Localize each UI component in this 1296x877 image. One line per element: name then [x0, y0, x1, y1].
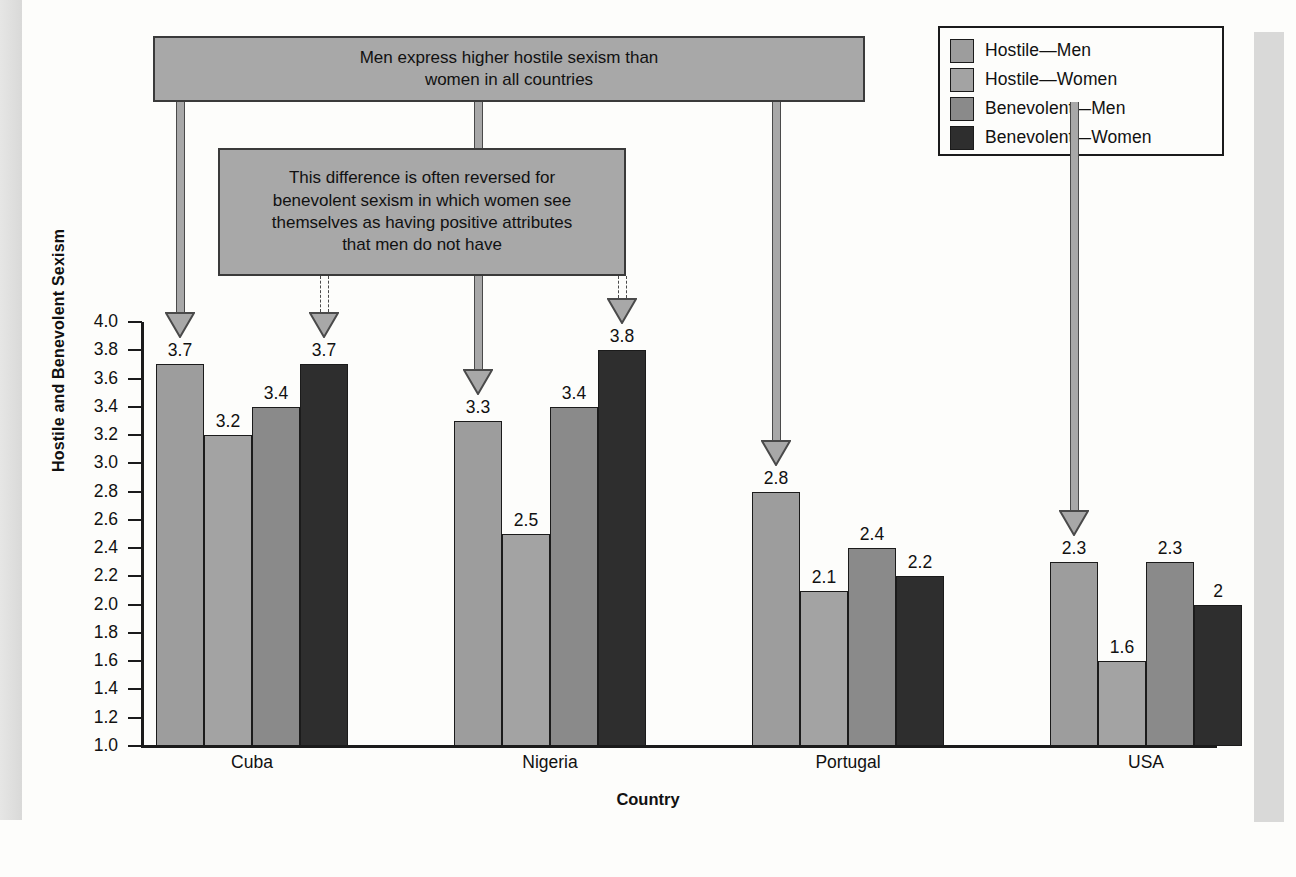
arrow-cuba-hostile-men-stem	[176, 102, 185, 312]
y-tick-label: 3.4	[66, 396, 118, 417]
legend-swatch-icon	[950, 68, 974, 92]
legend-item-label: Hostile—Women	[985, 69, 1117, 90]
bar[interactable]: 2.3	[1050, 562, 1098, 746]
page-bottom-margin	[0, 822, 1296, 877]
callout1-line1: Men express higher hostile sexism than	[360, 47, 659, 69]
y-tick-mark	[128, 406, 142, 408]
bar[interactable]: 2.2	[896, 576, 944, 746]
bar-value-label: 3.3	[466, 397, 490, 418]
bar[interactable]: 3.7	[300, 364, 348, 746]
bar-value-label: 3.2	[216, 411, 240, 432]
bar[interactable]: 2.8	[752, 492, 800, 746]
x-category-label: Portugal	[752, 752, 944, 773]
bar-group: 2.31.62.32USA	[1050, 322, 1242, 746]
bar-value-label: 3.4	[562, 383, 586, 404]
y-tick-label: 2.0	[66, 594, 118, 615]
bar-group-bars: 2.31.62.32	[1050, 322, 1242, 746]
plot-area: Hostile and Benevolent Sexism 4.03.83.63…	[142, 322, 1214, 746]
y-tick-label: 3.2	[66, 424, 118, 445]
bar-group: 3.32.53.43.8Nigeria	[454, 322, 646, 746]
bar-value-label: 2	[1213, 581, 1223, 602]
bar-group: 2.82.12.42.2Portugal	[752, 322, 944, 746]
arrow-nigeria-benevolent-women-head	[607, 298, 637, 324]
legend-item: Benevolent—Women	[950, 123, 1212, 152]
bar-value-label: 3.4	[264, 383, 288, 404]
arrow-nigeria-benevolent-women-stem	[618, 276, 627, 298]
bar-value-label: 2.3	[1062, 538, 1086, 559]
x-category-label: Cuba	[156, 752, 348, 773]
callout2-line3: themselves as having positive attributes	[272, 212, 573, 234]
y-tick-mark	[128, 491, 142, 493]
bar-group-bars: 2.82.12.42.2	[752, 322, 944, 746]
y-tick-mark	[128, 321, 142, 323]
bar-value-label: 2.8	[764, 468, 788, 489]
y-tick-label: 3.8	[66, 339, 118, 360]
x-category-label: USA	[1050, 752, 1242, 773]
y-tick-mark	[128, 434, 142, 436]
bar-group-bars: 3.73.23.43.7	[156, 322, 348, 746]
bar[interactable]: 2.4	[848, 548, 896, 746]
callout2-line4: that men do not have	[272, 234, 573, 256]
y-tick-mark	[128, 349, 142, 351]
y-tick-label: 1.0	[66, 735, 118, 756]
y-tick-mark	[128, 575, 142, 577]
callout2-line1: This difference is often reversed for	[272, 167, 573, 189]
bar[interactable]: 2.3	[1146, 562, 1194, 746]
callout1-line2: women in all countries	[360, 69, 659, 91]
y-tick-mark	[128, 745, 142, 747]
bar[interactable]: 3.3	[454, 421, 502, 746]
figure-canvas: Hostile—Men Hostile—Women Benevolent—Men…	[0, 0, 1296, 877]
legend-item: Benevolent—Men	[950, 94, 1212, 123]
y-tick-mark	[128, 660, 142, 662]
bar-value-label: 2.3	[1158, 538, 1182, 559]
y-tick-label: 2.4	[66, 537, 118, 558]
bar[interactable]: 3.7	[156, 364, 204, 746]
y-tick-label: 3.6	[66, 368, 118, 389]
y-tick-label: 3.0	[66, 452, 118, 473]
legend-item: Hostile—Men	[950, 36, 1212, 65]
bar-value-label: 2.4	[860, 524, 884, 545]
bar[interactable]: 2.5	[502, 534, 550, 746]
legend-item-label: Hostile—Men	[985, 40, 1091, 61]
bar[interactable]: 1.6	[1098, 661, 1146, 746]
bar[interactable]: 3.4	[550, 407, 598, 746]
y-tick-mark	[128, 717, 142, 719]
x-category-label: Nigeria	[454, 752, 646, 773]
bar-value-label: 2.1	[812, 567, 836, 588]
bar-value-label: 2.5	[514, 510, 538, 531]
y-tick-mark	[128, 519, 142, 521]
bar[interactable]: 3.2	[204, 435, 252, 746]
legend-swatch-icon	[950, 97, 974, 121]
page-edge-shadow-left	[0, 0, 22, 820]
legend-swatch-icon	[950, 126, 974, 150]
bar[interactable]: 3.8	[598, 350, 646, 746]
y-tick-label: 4.0	[66, 311, 118, 332]
y-tick-label: 1.8	[66, 622, 118, 643]
x-axis-title: Country	[0, 790, 1296, 809]
y-tick-mark	[128, 378, 142, 380]
arrow-cuba-benevolent-women-stem	[320, 276, 329, 312]
bar-value-label: 3.7	[312, 340, 336, 361]
callout2-line2: benevolent sexism in which women see	[272, 190, 573, 212]
y-tick-label: 2.6	[66, 509, 118, 530]
y-tick-mark	[128, 688, 142, 690]
page-edge-shadow-right	[1254, 32, 1284, 822]
y-tick-mark	[128, 604, 142, 606]
chart-legend: Hostile—Men Hostile—Women Benevolent—Men…	[938, 26, 1224, 156]
bar-value-label: 1.6	[1110, 637, 1134, 658]
bar-value-label: 2.2	[908, 552, 932, 573]
bar[interactable]: 2	[1194, 605, 1242, 746]
y-tick-label: 2.8	[66, 481, 118, 502]
bar-group: 3.73.23.43.7Cuba	[156, 322, 348, 746]
bar[interactable]: 2.1	[800, 591, 848, 746]
y-tick-mark	[128, 547, 142, 549]
legend-item-label: Benevolent—Men	[985, 98, 1126, 119]
bar[interactable]: 3.4	[252, 407, 300, 746]
bar-group-bars: 3.32.53.43.8	[454, 322, 646, 746]
y-tick-mark	[128, 462, 142, 464]
bar-value-label: 3.8	[610, 326, 634, 347]
callout-benevolent-reversed: This difference is often reversed for be…	[218, 148, 626, 276]
legend-swatch-icon	[950, 39, 974, 63]
y-tick-label: 2.2	[66, 565, 118, 586]
legend-item-label: Benevolent—Women	[985, 127, 1152, 148]
